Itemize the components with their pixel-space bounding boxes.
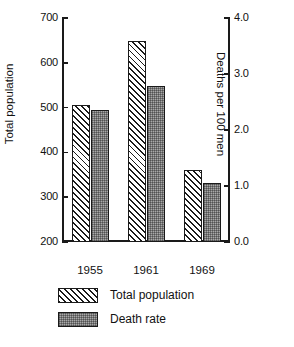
left-axis-tick	[62, 17, 68, 19]
bar-chart-figure: 700600500400300200 4.03.02.01.00.0 19551…	[0, 0, 294, 347]
left-axis-title: Total population	[3, 34, 15, 174]
right-axis-tick	[224, 185, 230, 187]
right-axis-title: Deaths per 100 men	[215, 34, 227, 174]
left-axis-tick-label: 400	[40, 146, 58, 157]
x-axis-category-label: 1969	[172, 264, 232, 276]
right-axis-tick-label: 2.0	[234, 124, 249, 135]
left-axis-tick-label: 300	[40, 191, 58, 202]
left-axis-tick	[62, 241, 68, 243]
bar-death-rate-1955	[91, 110, 109, 242]
right-axis-tick-label: 1.0	[234, 180, 249, 191]
bar-total-population-1969	[184, 170, 202, 242]
legend-swatch-diagonal-hatch	[58, 288, 98, 303]
right-axis-tick-label: 4.0	[234, 12, 249, 23]
bar-death-rate-1969	[203, 183, 221, 242]
left-axis-tick-label: 700	[40, 12, 58, 23]
legend-item: Death rate	[58, 307, 194, 331]
legend-item: Total population	[58, 283, 194, 307]
x-axis-category-label: 1955	[60, 264, 120, 276]
left-axis-tick	[62, 107, 68, 109]
left-axis-tick	[62, 62, 68, 64]
right-axis-tick	[224, 17, 230, 19]
left-axis-tick-label: 600	[40, 57, 58, 68]
left-axis-tick-label: 200	[40, 236, 58, 247]
legend-swatch-gray-stipple	[58, 312, 98, 327]
left-axis-tick	[62, 152, 68, 154]
bar-death-rate-1961	[147, 86, 165, 242]
right-axis-tick-label: 0.0	[234, 236, 249, 247]
right-axis-tick	[224, 241, 230, 243]
right-axis-tick-label: 3.0	[234, 68, 249, 79]
bar-total-population-1961	[128, 41, 146, 242]
left-axis-tick-label: 500	[40, 102, 58, 113]
x-axis-category-label: 1961	[116, 264, 176, 276]
bar-total-population-1955	[72, 105, 90, 242]
plot-area: 700600500400300200 4.03.02.01.00.0 19551…	[62, 18, 230, 242]
left-axis-tick	[62, 196, 68, 198]
legend-label: Total population	[110, 288, 194, 302]
chart-legend: Total populationDeath rate	[58, 283, 194, 331]
left-axis-line	[62, 18, 64, 242]
legend-label: Death rate	[110, 312, 166, 326]
